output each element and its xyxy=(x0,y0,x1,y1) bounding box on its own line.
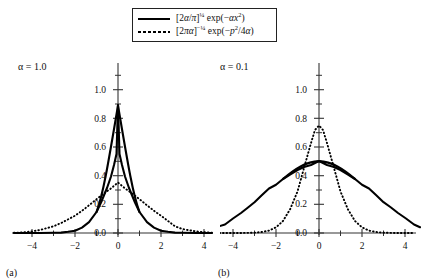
panel-a: α = 1.0 xyxy=(0,55,219,280)
panel-b-tag: (b) xyxy=(218,267,230,278)
panel-a-xtick-2: 2 xyxy=(147,241,175,251)
panel-a-alpha-label: α = 1.0 xyxy=(18,61,46,72)
panel-a-ytick-0.4: 0.4 xyxy=(78,171,106,181)
dotted-line-swatch-icon xyxy=(137,26,171,37)
panel-a-tag: (a) xyxy=(6,267,17,278)
panel-a-ytick-0.0: 0.0 xyxy=(78,228,106,238)
panel-b-ytick-0.6: 0.6 xyxy=(279,142,307,152)
panel-b-xtick-2: 2 xyxy=(348,241,376,251)
panel-b-alpha-label: α = 0.1 xyxy=(220,61,248,72)
panel-a-curve-solid xyxy=(14,105,212,233)
solid-line-swatch-icon xyxy=(137,13,171,24)
panel-b-ytick-0.2: 0.2 xyxy=(279,199,307,209)
panel-b-xtick-minus4: −4 xyxy=(219,241,247,251)
panel-a-ytick-0.8: 0.8 xyxy=(78,114,106,124)
legend-label-solid: [2α/π]¼ exp(−αx2) xyxy=(176,13,245,24)
panel-b-xtick-4: 4 xyxy=(391,241,419,251)
figure-root: [2α/π]¼ exp(−αx2) [2πα]−¼ exp(−p2/4α) α … xyxy=(0,0,439,280)
panel-a-xtick-4: 4 xyxy=(190,241,218,251)
legend-item-dotted: [2πα]−¼ exp(−p2/4α) xyxy=(137,25,271,38)
panel-b-ytick-0.4: 0.4 xyxy=(279,171,307,181)
panel-b-xtick-minus2: −2 xyxy=(262,241,290,251)
panel-a-xtick-minus4: −4 xyxy=(18,241,46,251)
panel-b-curve-dotted xyxy=(220,126,414,234)
panel-a-curve-dotted xyxy=(14,183,212,233)
panel-a-xtick-0: 0 xyxy=(104,241,132,251)
legend-label-dotted: [2πα]−¼ exp(−p2/4α) xyxy=(176,26,254,37)
panel-a-xtick-minus2: −2 xyxy=(61,241,89,251)
panel-b-curve-solid xyxy=(220,161,420,227)
panel-a-ytick-1.0: 1.0 xyxy=(78,85,106,95)
panel-a-ytick-0.2: 0.2 xyxy=(78,199,106,209)
panel-b-ytick-0.8: 0.8 xyxy=(279,114,307,124)
panel-a-ytick-0.6: 0.6 xyxy=(78,142,106,152)
panel-b-ytick-0.0: 0.0 xyxy=(279,228,307,238)
panel-b-ytick-1.0: 1.0 xyxy=(279,85,307,95)
legend: [2α/π]¼ exp(−αx2) [2πα]−¼ exp(−p2/4α) xyxy=(132,8,277,42)
panel-b: α = 0.1 xyxy=(220,55,439,280)
panel-b-xtick-0: 0 xyxy=(305,241,333,251)
